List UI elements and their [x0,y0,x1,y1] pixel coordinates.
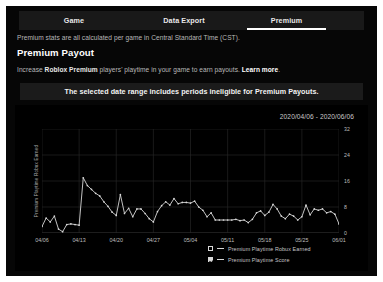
y-axis-tick: 24 [344,152,350,158]
x-axis-tick: 04/20 [110,237,124,243]
screenshot-root: Game Data Export Premium Premium stats a… [0,0,383,282]
legend-label-robux-earned: Premium Playtime Robux Earned [228,246,311,252]
legend-line-swatch-robux-earned [217,248,224,249]
date-range-label: 2020/04/06 - 2020/06/06 [280,113,354,120]
tab-game-label: Game [64,16,84,25]
x-axis-tick: 04/13 [72,237,86,243]
y-axis-tick: 32 [344,126,350,132]
chart-plot-area: Premium Playtime Robux Earned Premium Pl… [42,129,339,233]
chart-legend: Premium Playtime Robux Earned Premium Pl… [208,243,358,265]
page-title: Premium Payout [17,47,94,58]
y-axis-left-label: Premium Playtime Robux Earned [34,145,39,217]
premium-payout-chart-card: 2020/04/06 - 2020/06/06 Premium Playtime… [15,105,368,271]
legend-label-playtime-score: Premium Playtime Score [228,257,290,263]
premium-analytics-page: Game Data Export Premium Premium stats a… [6,6,377,276]
tab-premium[interactable]: Premium [239,11,334,30]
timezone-note: Premium stats are all calculated per gam… [17,34,240,41]
payout-description-part3: . [278,66,280,73]
roblox-premium-label: Roblox Premium [45,66,98,73]
tab-bar: Game Data Export Premium [19,11,364,30]
learn-more-link[interactable]: Learn more [242,66,278,73]
tab-data-export[interactable]: Data Export [129,11,239,30]
legend-checkbox-robux-earned[interactable] [208,246,213,251]
y-axis-tick: 16 [344,178,350,184]
payout-description: Increase Roblox Premium players' playtim… [17,66,280,73]
x-axis-tick: 04/06 [35,237,49,243]
legend-item-playtime-score[interactable]: Premium Playtime Score [208,254,358,265]
y-axis-tick: 0 [344,230,347,236]
payout-description-part1: Increase [17,66,45,73]
y-axis-tick: 8 [344,204,347,210]
payout-description-part2: players' playtime in your game to earn p… [98,66,242,73]
tab-data-export-label: Data Export [163,16,204,25]
legend-line-swatch-playtime-score [217,259,224,260]
x-axis-tick: 04/27 [147,237,161,243]
legend-checkbox-playtime-score[interactable] [208,257,213,262]
ineligible-period-banner: The selected date range includes periods… [20,83,363,100]
x-axis-tick: 05/04 [184,237,198,243]
tab-premium-label: Premium [271,16,302,25]
premium-playtime-score-line-chart [42,129,339,233]
legend-item-robux-earned[interactable]: Premium Playtime Robux Earned [208,243,358,254]
tab-game[interactable]: Game [19,11,129,30]
